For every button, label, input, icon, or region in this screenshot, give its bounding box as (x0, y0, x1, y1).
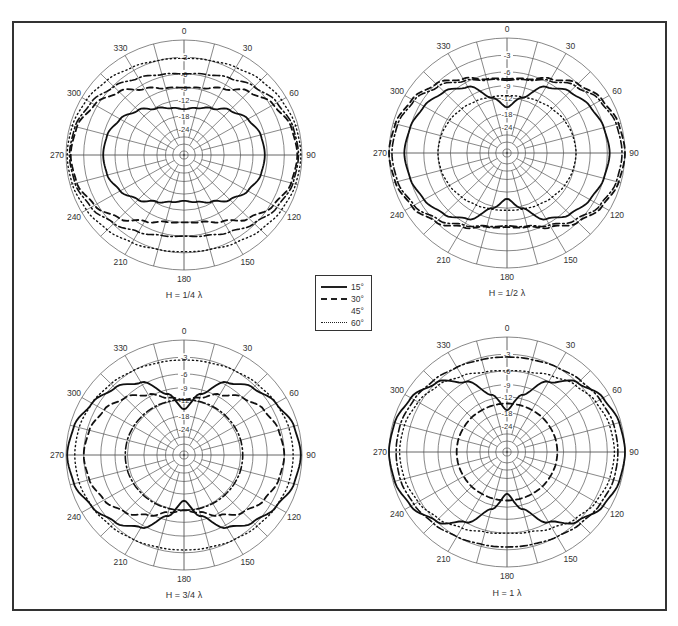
grid-spoke (154, 172, 180, 266)
angle-label: 240 (390, 210, 404, 220)
legend-label: 45° (351, 305, 364, 317)
grid-spoke (154, 472, 180, 566)
angle-label: 270 (373, 148, 387, 158)
angle-label: 60 (612, 86, 622, 96)
angle-label: 330 (436, 41, 450, 51)
angle-label: 150 (563, 255, 577, 265)
angle-label: 150 (240, 557, 254, 567)
angle-label: 120 (287, 512, 301, 522)
angle-label: 0 (182, 326, 187, 336)
angle-label: 150 (563, 554, 577, 564)
angle-label: 0 (505, 323, 510, 333)
angle-label: 240 (67, 212, 81, 222)
polar-chart-1: 0306090120150180210240270300330-3-6-9-12… (50, 26, 316, 284)
angle-label: 300 (67, 388, 81, 398)
angle-label: 330 (436, 340, 450, 350)
polar-chart-4: 0306090120150180210240270300330-3-6-9-12… (373, 323, 639, 581)
legend-dotted-swatch (321, 322, 347, 323)
angle-label: 0 (505, 24, 510, 34)
angle-label: 300 (390, 86, 404, 96)
radial-db-label: -24 (179, 425, 190, 434)
angle-label: 30 (566, 41, 576, 51)
angle-label: 60 (289, 388, 299, 398)
radial-db-label: -18 (179, 112, 190, 121)
angle-label: 210 (113, 557, 127, 567)
angle-label: 30 (243, 43, 253, 53)
center-dot (506, 152, 508, 154)
grid-spoke (189, 344, 215, 438)
grid-spoke (154, 344, 180, 438)
legend-label: 30° (351, 293, 364, 305)
angle-label: 210 (113, 257, 127, 267)
angle-label: 210 (436, 554, 450, 564)
center-dot (183, 154, 185, 156)
legend-item-15: 15° (321, 281, 369, 293)
angle-label: 30 (243, 343, 253, 353)
angle-label: 150 (240, 257, 254, 267)
radial-db-label: -3 (504, 51, 511, 60)
radial-db-label: -3 (504, 350, 511, 359)
caption-three-quarter-wave: H = 3/4 λ (166, 590, 202, 600)
angle-label: 180 (177, 574, 191, 584)
radial-db-label: -3 (181, 353, 188, 362)
radial-db-label: -9 (181, 384, 188, 393)
center-dot (183, 454, 185, 456)
caption-one-wave: H = 1 λ (493, 588, 522, 598)
angle-label: 120 (610, 210, 624, 220)
angle-label: 90 (629, 447, 639, 457)
caption-half-wave: H = 1/2 λ (489, 288, 525, 298)
angle-label: 270 (50, 150, 64, 160)
angle-label: 270 (50, 450, 64, 460)
radial-db-label: -9 (504, 82, 511, 91)
radial-db-label: -6 (504, 68, 511, 77)
angle-label: 30 (566, 340, 576, 350)
legend-solid-swatch (321, 286, 347, 288)
radial-db-label: -12 (502, 393, 513, 402)
radial-db-label: -18 (179, 412, 190, 421)
center-dot (506, 451, 508, 453)
radial-db-label: -12 (179, 96, 190, 105)
radial-db-label: -24 (179, 125, 190, 134)
legend-item-60: 60° (321, 317, 369, 329)
legend-dashed-swatch (321, 298, 347, 300)
grid-spoke (512, 42, 538, 136)
legend-label: 15° (351, 281, 364, 293)
caption-quarter-wave: H = 1/4 λ (166, 290, 202, 300)
grid-spoke (189, 472, 215, 566)
angle-label: 300 (67, 88, 81, 98)
radial-db-label: -24 (502, 123, 513, 132)
angle-label: 330 (113, 343, 127, 353)
grid-spoke (189, 172, 215, 266)
angle-label: 0 (182, 26, 187, 36)
angle-label: 120 (287, 212, 301, 222)
angle-label: 60 (289, 88, 299, 98)
angle-label: 180 (500, 272, 514, 282)
grid-spoke (477, 42, 503, 136)
angle-label: 120 (610, 509, 624, 519)
angle-label: 270 (373, 447, 387, 457)
angle-label: 180 (177, 274, 191, 284)
radial-db-label: -18 (502, 110, 513, 119)
angle-label: 180 (500, 571, 514, 581)
grid-spoke (477, 170, 503, 264)
legend: 15° 30° 45° 60° (315, 275, 372, 331)
legend-item-45: 45° (321, 305, 369, 317)
angle-label: 240 (67, 512, 81, 522)
angle-label: 210 (436, 255, 450, 265)
polar-chart-3: 0306090120150180210240270300330-3-6-9-12… (50, 326, 316, 584)
grid-spoke (512, 170, 538, 264)
angle-label: 330 (113, 43, 127, 53)
radial-db-label: -24 (502, 422, 513, 431)
radial-db-label: -6 (181, 370, 188, 379)
polar-chart-2: 0306090120150180210240270300330-3-6-9-12… (373, 24, 639, 282)
angle-label: 90 (306, 150, 316, 160)
legend-label: 60° (351, 317, 364, 329)
angle-label: 60 (612, 385, 622, 395)
angle-label: 90 (306, 450, 316, 460)
angle-label: 240 (390, 509, 404, 519)
angle-label: 90 (629, 148, 639, 158)
angle-label: 300 (390, 385, 404, 395)
radial-db-label: -9 (504, 381, 511, 390)
legend-item-30: 30° (321, 293, 369, 305)
